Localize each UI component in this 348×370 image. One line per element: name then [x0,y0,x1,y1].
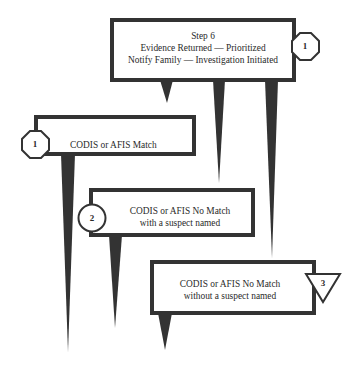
spike-top-to-branch-1 [160,80,173,103]
spike-top-to-branch-2 [213,80,225,183]
spike-branch-2 [109,235,122,328]
branch-3-line-1: CODIS or AFIS No Match [154,278,306,290]
spike-branch-3 [158,313,172,350]
spike-branch-1 [61,154,75,352]
branch-2-line-1: CODIS or AFIS No Match [106,205,254,217]
top-box-line-1: Step 6 [112,30,294,42]
top-box-text: Step 6 Evidence Returned — Prioritized N… [112,30,294,66]
branch-3-text: CODIS or AFIS No Match without a suspect… [154,278,306,302]
branch-1-text: CODIS or AFIS Match [52,139,210,151]
top-box-line-2: Evidence Returned — Prioritized [112,42,294,54]
branch-2-badge-label: 2 [85,212,99,224]
top-box-badge-label: 1 [298,40,312,52]
spike-top-to-branch-3 [265,80,278,258]
top-box-line-3: Notify Family — Investigation Initiated [112,54,294,66]
branch-3-badge-label: 3 [316,277,330,289]
branch-1-line-1: CODIS or AFIS Match [70,139,210,151]
branch-1-badge-label: 1 [28,138,42,150]
branch-3-line-2: without a suspect named [154,290,306,302]
branch-2-text: CODIS or AFIS No Match with a suspect na… [106,205,254,229]
branch-2-line-2: with a suspect named [106,217,254,229]
